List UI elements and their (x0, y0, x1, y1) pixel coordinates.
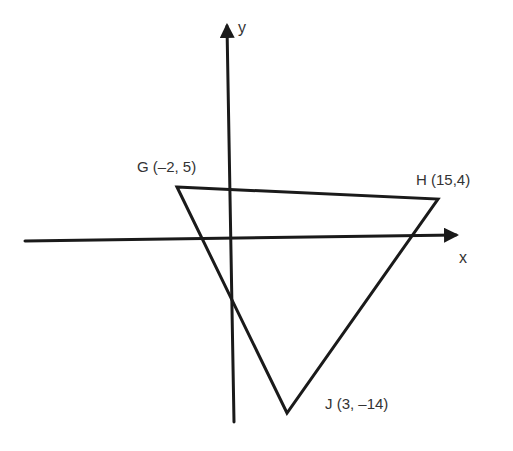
triangle-ghj (177, 187, 438, 413)
x-axis (25, 235, 456, 241)
coordinate-plane (0, 0, 513, 451)
y-axis-label: y (238, 20, 246, 36)
y-axis (227, 26, 234, 422)
vertex-label-g: G (–2, 5) (137, 159, 196, 174)
x-axis-label: x (459, 250, 467, 266)
vertex-label-j: J (3, –14) (325, 396, 388, 411)
vertex-label-h: H (15,4) (416, 172, 470, 187)
